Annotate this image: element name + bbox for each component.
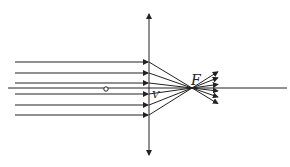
ray-diagram-svg xyxy=(0,0,290,167)
focus-label: F xyxy=(191,72,201,88)
center-marker xyxy=(104,87,108,91)
lens-diagram: F V xyxy=(0,0,290,167)
vertex-label: V xyxy=(152,89,159,100)
